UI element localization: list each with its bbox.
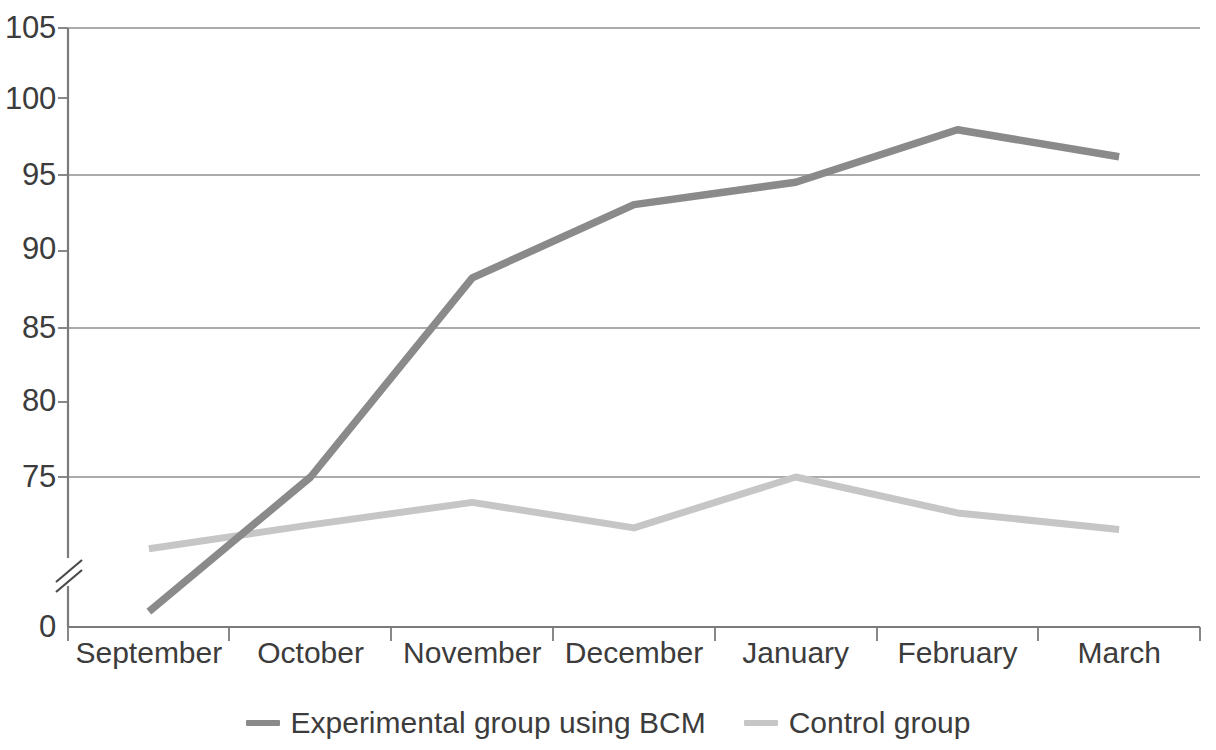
line-swatch-light-icon (744, 720, 778, 726)
y-axis-ticks (58, 28, 68, 477)
x-axis-category-labels: September October November December Janu… (68, 636, 1200, 680)
x-label-october: October (230, 636, 392, 680)
legend-entry-experimental: Experimental group using BCM (246, 708, 706, 738)
x-label-march: March (1038, 636, 1200, 680)
legend-label-experimental: Experimental group using BCM (291, 708, 706, 738)
legend-entry-control: Control group (744, 708, 971, 738)
line-chart: 105 100 95 90 85 80 75 0 (0, 0, 1216, 750)
data-line-experimental-group (149, 130, 1119, 612)
legend-label-control: Control group (789, 708, 971, 738)
gridlines (68, 28, 1200, 477)
x-label-september: September (68, 636, 230, 680)
chart-legend: Experimental group using BCM Control gro… (0, 700, 1216, 746)
line-swatch-dark-icon (246, 720, 280, 726)
x-label-january: January (715, 636, 877, 680)
x-label-december: December (553, 636, 715, 680)
x-label-november: November (391, 636, 553, 680)
x-label-february: February (877, 636, 1039, 680)
